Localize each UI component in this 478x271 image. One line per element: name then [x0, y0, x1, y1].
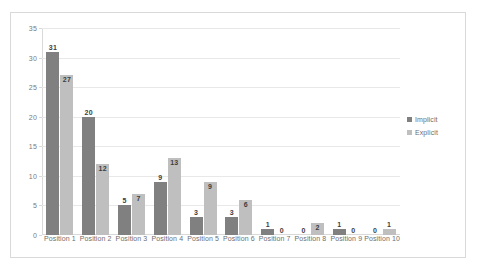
- y-axis-tick-label: 0: [33, 232, 37, 239]
- bar-group: 01: [364, 28, 400, 235]
- x-axis-category-label: Position 10: [364, 235, 400, 242]
- bar-group: 10: [328, 28, 364, 235]
- x-axis-category-label: Position 9: [328, 235, 364, 242]
- bar-explicit: 2: [311, 223, 324, 235]
- bar-value-label: 31: [49, 44, 57, 51]
- legend-item-label: Implicit: [415, 116, 438, 123]
- bar-group: 913: [149, 28, 185, 235]
- bar-value-label: 0: [301, 227, 305, 234]
- bar-value-label: 6: [244, 201, 248, 208]
- x-axis-category-label: Position 5: [185, 235, 221, 242]
- x-axis-category-label: Position 7: [257, 235, 293, 242]
- x-axis-category-labels: Position 1Position 2Position 3Position 4…: [42, 235, 400, 242]
- x-axis-category-label: Position 2: [78, 235, 114, 242]
- bar-group: 02: [293, 28, 329, 235]
- bar-implicit: 5: [118, 205, 131, 235]
- bar-value-label: 3: [194, 209, 198, 216]
- bar-implicit: 31: [46, 52, 59, 235]
- y-axis-tick-label: 15: [29, 143, 37, 150]
- bar-value-label: 0: [373, 227, 377, 234]
- bar-explicit: 7: [132, 194, 145, 235]
- bar-explicit: 9: [204, 182, 217, 235]
- y-axis-tick-label: 10: [29, 172, 37, 179]
- x-axis-category-label: Position 8: [293, 235, 329, 242]
- bar-value-label: 1: [266, 221, 270, 228]
- bar-value-label: 7: [136, 195, 140, 202]
- y-axis-tick-label: 5: [33, 202, 37, 209]
- plot-area: 05101520253035 3127201257913393610021001: [42, 28, 400, 235]
- bar-value-label: 2: [315, 224, 319, 231]
- bar-value-label: 0: [280, 227, 284, 234]
- bar-explicit: 12: [96, 164, 109, 235]
- legend-swatch-dark-icon: [407, 117, 412, 122]
- bar-value-label: 9: [208, 183, 212, 190]
- y-axis-tick-label: 25: [29, 84, 37, 91]
- bar-groups: 3127201257913393610021001: [42, 28, 400, 235]
- bar-group: 36: [221, 28, 257, 235]
- y-axis-tick-label: 30: [29, 54, 37, 61]
- bar-value-label: 13: [170, 159, 178, 166]
- bar-group: 57: [114, 28, 150, 235]
- legend-item-implicit[interactable]: Implicit: [407, 116, 465, 123]
- bar-value-label: 27: [63, 76, 71, 83]
- bar-value-label: 12: [99, 165, 107, 172]
- x-axis-category-label: Position 6: [221, 235, 257, 242]
- y-axis-tick-label: 20: [29, 113, 37, 120]
- bar-value-label: 1: [387, 221, 391, 228]
- bar-value-label: 5: [122, 197, 126, 204]
- bar-implicit: 20: [82, 117, 95, 235]
- chart-legend: ImplicitExplicit: [407, 116, 465, 142]
- bar-value-label: 9: [158, 174, 162, 181]
- bar-group: 39: [185, 28, 221, 235]
- bar-group: 2012: [78, 28, 114, 235]
- x-axis-category-label: Position 4: [149, 235, 185, 242]
- bar-explicit: 6: [239, 200, 252, 235]
- bar-value-label: 3: [230, 209, 234, 216]
- bar-implicit: 3: [190, 217, 203, 235]
- bar-value-label: 20: [85, 109, 93, 116]
- x-axis-category-label: Position 1: [42, 235, 78, 242]
- bar-group: 10: [257, 28, 293, 235]
- legend-item-label: Explicit: [415, 129, 438, 136]
- bar-explicit: 13: [168, 158, 181, 235]
- chart-figure: 05101520253035 3127201257913393610021001…: [10, 12, 466, 258]
- y-axis-tick-label: 35: [29, 25, 37, 32]
- bar-explicit: 27: [60, 75, 73, 235]
- bar-implicit: 3: [225, 217, 238, 235]
- legend-swatch-light-icon: [407, 130, 412, 135]
- bar-implicit: 9: [154, 182, 167, 235]
- bar-group: 3127: [42, 28, 78, 235]
- x-axis-category-label: Position 3: [114, 235, 150, 242]
- bar-value-label: 0: [351, 227, 355, 234]
- bar-value-label: 1: [337, 221, 341, 228]
- legend-item-explicit[interactable]: Explicit: [407, 129, 465, 136]
